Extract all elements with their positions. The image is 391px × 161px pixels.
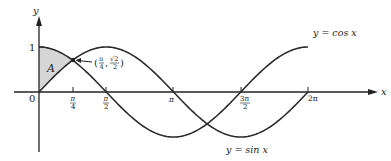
point-label-comma: , xyxy=(105,57,108,68)
point-label-close-paren: ) xyxy=(120,57,124,68)
tick-label-pi: π xyxy=(168,95,175,104)
tick-label-pi2-num: π xyxy=(103,95,109,103)
tick-label-pi4-den: 4 xyxy=(71,103,76,111)
y-axis-arrow-icon xyxy=(36,16,42,26)
intersection-point xyxy=(71,58,75,62)
origin-label: 0 xyxy=(29,93,35,104)
y-axis-label: y xyxy=(32,5,39,16)
y-tick-label-one: 1 xyxy=(29,42,35,53)
sin-curve-label: y = sin x xyxy=(225,144,268,155)
point-label-2: 2 xyxy=(113,63,117,71)
tick-label-3pi2-den: 2 xyxy=(243,103,247,111)
x-axis-arrow-icon xyxy=(368,89,378,95)
point-label-open-paren: ( xyxy=(94,57,98,68)
cos-curve-label: y = cos x xyxy=(312,27,357,38)
point-label-4: 4 xyxy=(100,63,104,71)
point-label-pi: π xyxy=(99,55,104,63)
shaded-region-a xyxy=(39,47,73,92)
tick-label-3pi2-num: 3π xyxy=(240,95,249,103)
sine-cosine-plot: y x 1 0 A ( π 4 , √2 2 ) π 4 π 2 π 3π 2 … xyxy=(0,0,391,161)
region-label: A xyxy=(46,62,55,75)
tick-label-2pi: 2π xyxy=(308,94,318,103)
x-ticks xyxy=(73,87,308,92)
x-axis-label: x xyxy=(381,86,387,97)
tick-label-pi4-num: π xyxy=(70,95,76,103)
tick-label-pi2-den: 2 xyxy=(104,103,108,111)
point-label-sqrt2: √2 xyxy=(110,55,118,63)
